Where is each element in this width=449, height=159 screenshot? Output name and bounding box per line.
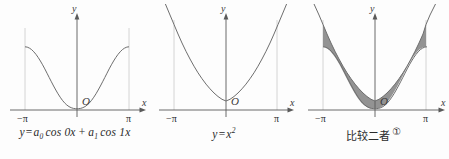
origin-label: O <box>231 95 239 107</box>
x-axis-arrow <box>288 108 295 113</box>
caption-footnote-marker: ① <box>390 126 401 137</box>
origin-label: O <box>380 95 388 107</box>
x-axis-arrow <box>439 108 446 113</box>
caption-comparison: 比较二者① <box>298 126 449 143</box>
tick-label-minus-pi: −π <box>17 113 28 124</box>
tick-label-pi: π <box>126 113 131 124</box>
caption-comparison-text: 比较二者 <box>346 130 391 143</box>
y-axis-label: y <box>71 3 77 14</box>
caption-parabola: y=x2 <box>150 126 298 140</box>
origin-label: O <box>82 95 90 107</box>
x-axis-label: x <box>440 97 446 108</box>
x-axis-label: x <box>289 97 295 108</box>
x-axis-arrow <box>140 108 147 113</box>
panel-cosine-series: y x O −π π y=a0cos 0x+a1cos 1x <box>0 0 150 159</box>
tick-label-minus-pi: −π <box>166 113 177 124</box>
tick-label-pi: π <box>423 113 428 124</box>
chart-parabola: y x O −π π <box>150 0 298 128</box>
chart-cosine-series: y x O −π π <box>0 0 150 128</box>
caption-lhs: y <box>19 126 24 138</box>
figure-three-panel-fourier-comparison: y x O −π π y=a0cos 0x+a1cos 1x y <box>0 0 449 159</box>
plot-area-cosine-series: y x O −π π <box>0 0 150 128</box>
caption-rhs-exponent: 2 <box>232 126 236 135</box>
plot-area-comparison: y x O −π π <box>298 0 449 128</box>
y-axis-label: y <box>369 3 375 14</box>
caption-term1-fn: cos 0x <box>43 126 75 138</box>
caption-plus: + <box>76 126 89 138</box>
caption-lhs: y <box>212 128 217 140</box>
tick-label-pi: π <box>274 113 279 124</box>
plot-area-parabola: y x O −π π <box>150 0 298 128</box>
shaded-difference-region <box>323 25 426 109</box>
x-axis-label: x <box>141 97 147 108</box>
caption-cosine-series: y=a0cos 0x+a1cos 1x <box>0 126 150 141</box>
panel-parabola: y x O −π π y=x2 <box>150 0 298 159</box>
y-axis-label: y <box>220 3 226 14</box>
panel-comparison: y x O −π π 比较二者① <box>298 0 449 159</box>
tick-label-minus-pi: −π <box>315 113 326 124</box>
chart-comparison: y x O −π π <box>298 0 449 128</box>
caption-term2-fn: cos 1x <box>98 126 130 138</box>
